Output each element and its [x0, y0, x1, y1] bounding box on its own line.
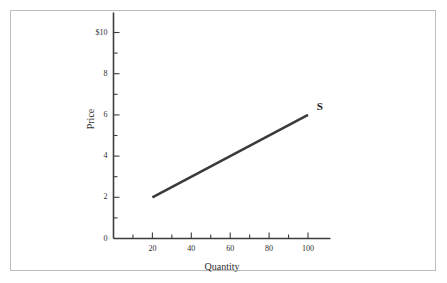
x-axis-title: Quantity [205, 261, 240, 272]
axis-lines [114, 13, 331, 239]
y-axis-tick-label: $10 [0, 29, 108, 37]
supply-curve-line [152, 115, 308, 197]
series-lines [152, 115, 308, 197]
tick-marks [114, 33, 309, 239]
y-axis-tick-label: 4 [0, 152, 108, 160]
x-axis-tick-label: 80 [265, 245, 273, 253]
x-axis-tick-label: 20 [148, 245, 156, 253]
supply-curve-label: S [317, 101, 323, 112]
x-axis-tick-label: 60 [226, 245, 234, 253]
chart-plot-area: 02468$10 20406080100 Quantity Price S [0, 0, 447, 283]
y-axis-tick-label: 2 [0, 193, 108, 201]
y-axis-tick-label: 0 [0, 235, 108, 243]
y-axis-title: Price [85, 108, 96, 129]
y-axis-tick-label: 8 [0, 70, 108, 78]
x-axis-tick-label: 100 [302, 245, 314, 253]
x-axis-tick-label: 40 [187, 245, 195, 253]
